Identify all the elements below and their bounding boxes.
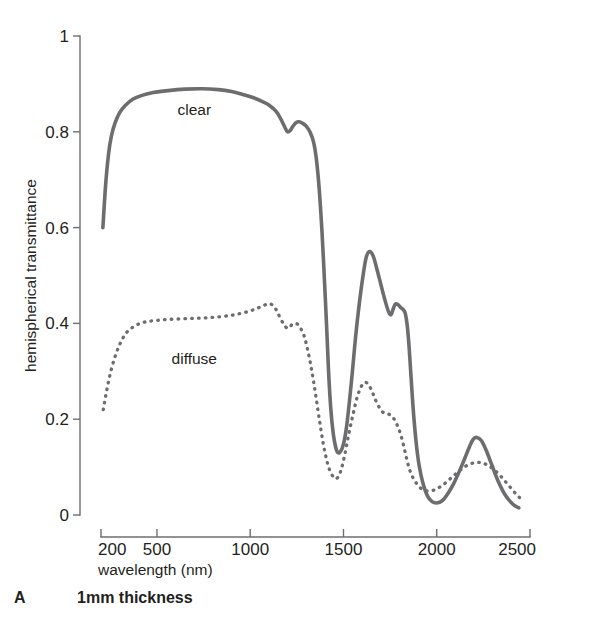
series-diffuse bbox=[103, 304, 520, 498]
y-axis-tick-label: 0.8 bbox=[45, 123, 69, 142]
y-axis-title: hemispherical transmittance bbox=[22, 179, 39, 372]
panel-letter: A bbox=[14, 589, 26, 606]
figure-panel-a: 00.20.40.60.81hemispherical transmittanc… bbox=[0, 0, 607, 623]
y-axis-tick-label: 0 bbox=[60, 506, 69, 525]
annotation-clear: clear bbox=[177, 101, 211, 118]
y-axis-tick-label: 1 bbox=[60, 27, 69, 46]
transmittance-chart: 00.20.40.60.81hemispherical transmittanc… bbox=[0, 0, 607, 623]
x-axis-title: wavelength (nm) bbox=[97, 561, 213, 578]
series-clear bbox=[103, 89, 519, 508]
annotation-diffuse: diffuse bbox=[172, 350, 217, 367]
x-axis-tick-label: 200 bbox=[98, 540, 126, 559]
y-axis-tick-label: 0.6 bbox=[45, 219, 69, 238]
y-axis-tick-label: 0.4 bbox=[45, 314, 69, 333]
x-axis-tick-label: 2500 bbox=[498, 540, 536, 559]
x-axis-tick-label: 1000 bbox=[231, 540, 269, 559]
panel-caption: 1mm thickness bbox=[77, 589, 193, 606]
x-axis-tick-label: 2000 bbox=[418, 540, 456, 559]
x-axis-tick-label: 500 bbox=[143, 540, 171, 559]
y-axis-tick-label: 0.2 bbox=[45, 410, 69, 429]
x-axis-tick-label: 1500 bbox=[325, 540, 363, 559]
